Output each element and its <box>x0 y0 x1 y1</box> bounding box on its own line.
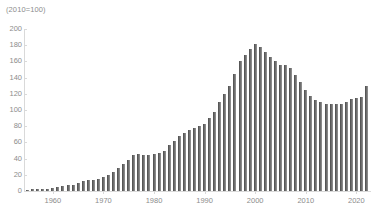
bar-1970 <box>102 177 105 191</box>
bar-2008 <box>294 75 297 191</box>
y-tick-mark-20 <box>24 175 27 176</box>
bar-2009 <box>299 82 302 191</box>
y-tick-mark-200 <box>24 29 27 30</box>
y-tick-mark-0 <box>24 191 27 192</box>
x-tick-mark-1990 <box>205 191 206 194</box>
bar-2003 <box>269 57 272 191</box>
bar-1985 <box>178 136 181 191</box>
y-tick-label-200: 200 <box>2 25 22 33</box>
bar-2011 <box>309 96 312 191</box>
y-tick-label-60: 60 <box>2 138 22 146</box>
bar-1997 <box>239 61 242 191</box>
y-axis-tick-labels: 020406080100120140160180200 <box>0 0 22 224</box>
bar-1983 <box>168 145 171 191</box>
bar-1956 <box>31 189 34 191</box>
bar-1999 <box>249 49 252 191</box>
y-tick-mark-40 <box>24 159 27 160</box>
bar-2010 <box>304 90 307 191</box>
y-tick-label-40: 40 <box>2 155 22 163</box>
bar-1963 <box>67 185 70 191</box>
bar-2013 <box>319 102 322 191</box>
bar-1971 <box>107 175 110 191</box>
bar-1966 <box>82 181 85 191</box>
bar-1972 <box>112 172 115 191</box>
bar-1993 <box>218 102 221 191</box>
bar-1968 <box>92 180 95 191</box>
bar-1989 <box>198 126 201 191</box>
x-tick-label-2020: 2020 <box>336 197 376 205</box>
bar-2018 <box>345 102 348 191</box>
x-tick-label-2000: 2000 <box>235 197 275 205</box>
bar-1965 <box>77 183 80 191</box>
bar-2002 <box>264 52 267 191</box>
bar-2007 <box>289 68 292 191</box>
y-tick-mark-120 <box>24 94 27 95</box>
bar-1959 <box>46 189 49 191</box>
bar-1991 <box>208 118 211 191</box>
x-tick-mark-2020 <box>356 191 357 194</box>
bar-2022 <box>365 86 368 191</box>
x-tick-label-1960: 1960 <box>33 197 73 205</box>
x-tick-mark-2000 <box>255 191 256 194</box>
bar-1974 <box>122 164 125 191</box>
bar-1995 <box>228 86 231 191</box>
y-tick-mark-160 <box>24 61 27 62</box>
bar-1980 <box>153 154 156 191</box>
bar-1976 <box>132 155 135 191</box>
bar-2001 <box>259 47 262 191</box>
bar-1962 <box>61 186 64 191</box>
bar-1978 <box>142 155 145 191</box>
y-tick-label-80: 80 <box>2 122 22 130</box>
bar-1975 <box>127 160 130 191</box>
bar-2014 <box>325 104 328 191</box>
bar-1961 <box>56 187 59 191</box>
plot-area <box>25 29 369 191</box>
y-tick-label-180: 180 <box>2 41 22 49</box>
bar-1984 <box>173 141 176 191</box>
bar-1988 <box>193 128 196 191</box>
y-tick-label-0: 0 <box>2 187 22 195</box>
bar-2000 <box>254 44 257 191</box>
y-tick-mark-140 <box>24 78 27 79</box>
bar-2020 <box>355 98 358 191</box>
bar-2005 <box>279 65 282 191</box>
x-tick-label-1990: 1990 <box>185 197 225 205</box>
y-tick-label-100: 100 <box>2 106 22 114</box>
bar-1957 <box>36 189 39 191</box>
bar-1990 <box>203 124 206 191</box>
x-tick-label-2010: 2010 <box>286 197 326 205</box>
bar-chart: (2010=100) 020406080100120140160180200 1… <box>0 0 376 224</box>
y-tick-label-20: 20 <box>2 171 22 179</box>
bar-2012 <box>314 100 317 191</box>
bar-1987 <box>188 130 191 191</box>
bar-2021 <box>360 97 363 191</box>
bar-1986 <box>183 133 186 191</box>
bar-1977 <box>137 154 140 191</box>
bar-2019 <box>350 99 353 191</box>
y-tick-label-140: 140 <box>2 74 22 82</box>
bar-1973 <box>117 168 120 191</box>
y-tick-mark-100 <box>24 110 27 111</box>
x-tick-label-1980: 1980 <box>134 197 174 205</box>
bar-2016 <box>335 104 338 191</box>
x-tick-label-1970: 1970 <box>83 197 123 205</box>
bar-1998 <box>244 55 247 191</box>
bar-1994 <box>223 94 226 191</box>
x-tick-mark-1960 <box>53 191 54 194</box>
y-tick-label-160: 160 <box>2 57 22 65</box>
bar-2017 <box>340 104 343 191</box>
x-tick-mark-1970 <box>103 191 104 194</box>
y-tick-mark-80 <box>24 126 27 127</box>
bar-1996 <box>233 74 236 191</box>
bar-2006 <box>284 65 287 191</box>
x-tick-mark-1980 <box>154 191 155 194</box>
x-axis-line <box>24 191 371 192</box>
bar-1981 <box>158 153 161 191</box>
bar-1979 <box>147 155 150 191</box>
bar-1969 <box>97 179 100 191</box>
bar-2004 <box>274 61 277 191</box>
y-tick-mark-180 <box>24 45 27 46</box>
bar-1958 <box>41 189 44 191</box>
bar-1992 <box>213 112 216 191</box>
x-tick-mark-2010 <box>306 191 307 194</box>
